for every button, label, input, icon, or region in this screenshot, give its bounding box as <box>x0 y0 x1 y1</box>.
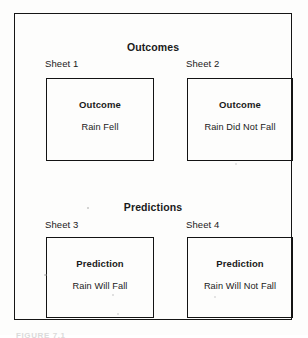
sheet-box-2: Outcome Rain Did Not Fall <box>187 78 293 161</box>
scan-speckle <box>112 294 114 296</box>
figure-caption: FIGURE 7.1 <box>16 331 66 338</box>
sheet-2-body: Rain Did Not Fall <box>188 122 292 132</box>
scan-speckle <box>214 296 216 298</box>
sheet-box-1: Outcome Rain Fell <box>46 78 154 161</box>
section-title-predictions: Predictions <box>15 201 291 213</box>
sheet-box-3: Prediction Rain Will Fall <box>46 237 154 318</box>
scan-speckle <box>117 313 119 315</box>
figure-outer-frame: Outcomes Sheet 1 Outcome Rain Fell Sheet… <box>14 13 292 320</box>
sheet-label-3: Sheet 3 <box>45 219 78 230</box>
sheet-box-4: Prediction Rain Will Not Fall <box>187 237 293 318</box>
sheet-1-heading: Outcome <box>47 99 153 110</box>
scan-speckle <box>87 207 89 209</box>
sheet-2-heading: Outcome <box>188 99 292 110</box>
sheet-label-1: Sheet 1 <box>45 58 78 69</box>
section-title-outcomes: Outcomes <box>15 41 291 53</box>
sheet-4-heading: Prediction <box>188 258 292 269</box>
sheet-4-body: Rain Will Not Fall <box>188 281 292 291</box>
scan-speckle <box>235 163 237 165</box>
sheet-1-body: Rain Fell <box>47 122 153 132</box>
sheet-3-heading: Prediction <box>47 258 153 269</box>
sheet-label-4: Sheet 4 <box>186 219 219 230</box>
sheet-label-2: Sheet 2 <box>186 58 219 69</box>
scan-speckle <box>44 274 47 276</box>
sheet-3-body: Rain Will Fall <box>47 281 153 291</box>
